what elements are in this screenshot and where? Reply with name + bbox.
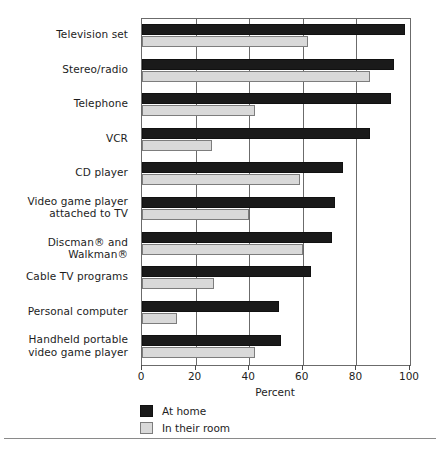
bar-chart-figure: Television setStereo/radioTelephoneVCRCD… [0,0,440,449]
category-label: CD player [0,166,128,179]
bar-group [142,232,410,262]
bar-at-home [142,24,405,35]
bars-layer [142,19,410,365]
bar-in-their-room [142,244,303,255]
legend-label: At home [162,405,206,417]
category-label-line: Discman® and Walkman® [0,236,128,261]
bar-at-home [142,128,370,139]
legend-swatch-room [140,422,153,434]
legend: At homeIn their room [140,403,340,437]
bar-in-their-room [142,36,308,47]
bar-group [142,335,410,365]
category-label-line: Video game player [0,195,128,208]
category-label-line: video game player [0,346,128,359]
category-label: Telephone [0,97,128,110]
legend-item: In their room [140,420,340,436]
x-tick-label: 40 [242,370,255,382]
category-label-line: VCR [0,132,128,145]
x-tick-label: 60 [295,370,308,382]
bar-in-their-room [142,278,214,289]
bar-in-their-room [142,140,212,151]
category-label-line: Stereo/radio [0,63,128,76]
bar-in-their-room [142,174,300,185]
bar-group [142,162,410,192]
bar-group [142,301,410,331]
x-tick-label: 0 [138,370,145,382]
category-axis-labels: Television setStereo/radioTelephoneVCRCD… [0,18,134,364]
bar-group [142,59,410,89]
plot-area [141,18,411,366]
category-label-line: Cable TV programs [0,270,128,283]
x-tick-label: 80 [349,370,362,382]
bar-at-home [142,162,343,173]
category-label-line: CD player [0,166,128,179]
category-label: Handheld portablevideo game player [0,333,128,358]
x-tick-label: 20 [188,370,201,382]
category-label: Discman® and Walkman® [0,236,128,261]
bar-at-home [142,335,281,346]
bar-at-home [142,93,391,104]
bar-in-their-room [142,71,370,82]
legend-swatch-home [140,405,153,417]
bar-group [142,128,410,158]
legend-label: In their room [162,422,230,434]
category-label-line: Handheld portable [0,333,128,346]
category-label-line: Telephone [0,97,128,110]
category-label-line: Personal computer [0,305,128,318]
category-label-line: attached to TV [0,207,128,220]
category-label: Television set [0,28,128,41]
bar-in-their-room [142,347,255,358]
bar-in-their-room [142,209,249,220]
category-label: Video game playerattached to TV [0,195,128,220]
bar-in-their-room [142,105,255,116]
category-label-line: Television set [0,28,128,41]
legend-item: At home [140,403,340,419]
bar-at-home [142,266,311,277]
category-label: VCR [0,132,128,145]
bar-at-home [142,301,279,312]
bottom-divider [4,438,436,439]
bar-group [142,266,410,296]
bar-group [142,197,410,227]
x-axis-title: Percent [141,386,409,398]
bar-at-home [142,59,394,70]
x-tick-label: 100 [399,370,419,382]
bar-in-their-room [142,313,177,324]
bar-group [142,93,410,123]
bar-group [142,24,410,54]
category-label: Personal computer [0,305,128,318]
category-label: Stereo/radio [0,63,128,76]
category-label: Cable TV programs [0,270,128,283]
bar-at-home [142,197,335,208]
x-axis-tick-labels: 020406080100 [141,370,409,384]
bar-at-home [142,232,332,243]
